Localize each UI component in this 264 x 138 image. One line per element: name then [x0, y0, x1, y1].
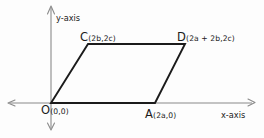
vertex-label-o: O(0,0): [41, 101, 69, 117]
vertex-coords-d: (2a + 2b,2c): [186, 34, 235, 43]
y-axis-label: y-axis: [56, 14, 80, 22]
vertex-label-d: D(2a + 2b,2c): [177, 28, 235, 44]
x-axis-label: x-axis: [221, 111, 245, 119]
vertex-letter-c: C: [80, 30, 88, 44]
vertex-label-c: C(2b,2c): [80, 28, 116, 44]
vertex-label-a: A(2a,0): [145, 105, 176, 121]
vertex-letter-o: O: [41, 103, 50, 117]
vertex-coords-a: (2a,0): [153, 111, 176, 120]
vertex-coords-c: (2b,2c): [88, 34, 116, 43]
parallelogram-coordinate-figure: C(2b,2c) D(2a + 2b,2c) O(0,0) A(2a,0) y-…: [0, 0, 264, 138]
parallelogram-shape: [51, 44, 185, 103]
vertex-letter-d: D: [177, 30, 186, 44]
vertex-coords-o: (0,0): [50, 107, 69, 116]
vertex-letter-a: A: [145, 107, 153, 121]
